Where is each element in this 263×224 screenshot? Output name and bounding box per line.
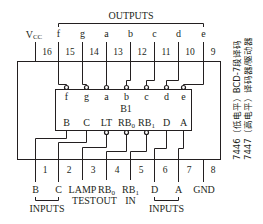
pin-number-16: 16 xyxy=(42,47,52,57)
bubble-b xyxy=(125,86,129,90)
top-inversion-bubbles xyxy=(65,86,186,90)
bubble-lt xyxy=(105,131,109,135)
vcc-label: VCC xyxy=(26,29,43,41)
bubble-a xyxy=(105,86,109,90)
pin-c-label: c xyxy=(152,28,157,39)
top-routing-wires xyxy=(59,61,204,87)
pin-number-11: 11 xyxy=(161,47,170,57)
pin-b-label: b xyxy=(128,28,133,39)
chip-title-vertical: 7446（低电平）BCD-7段译码 7447（高电平）译码器/驱动器 xyxy=(232,37,253,161)
inner-top-labels: f g a b c d e xyxy=(65,91,186,102)
gnd-label: GND xyxy=(193,184,215,195)
rb1-in-label-line2: IN xyxy=(125,195,136,206)
pin-number-10: 10 xyxy=(185,47,195,57)
inner-label-B: B xyxy=(63,117,70,128)
bubble-e xyxy=(182,86,186,90)
pin-number-14: 14 xyxy=(89,47,99,57)
pin-number-9: 9 xyxy=(211,47,216,57)
inner-label-RB0: RB0 xyxy=(118,117,135,130)
outputs-label: OUTPUTS xyxy=(108,10,153,21)
inner-label-RB1: RB1 xyxy=(138,117,155,130)
top-external-labels: VCC f g a b c d e xyxy=(26,28,207,41)
inner-label-f: f xyxy=(65,91,69,102)
chip-title-7446: 7446（低电平）BCD-7段译码 xyxy=(232,40,242,160)
chip-label: B1 xyxy=(120,103,132,114)
pin-number-5: 5 xyxy=(139,165,144,175)
inner-label-e: e xyxy=(181,91,186,102)
pin-number-6: 6 xyxy=(163,165,168,175)
inputs-left-label: INPUTS xyxy=(29,203,64,214)
bcd-7seg-decoder-diagram: OUTPUTS VCC f g a b c d e 16 15 14 13 12… xyxy=(0,0,263,224)
bubble-d xyxy=(165,86,169,90)
inner-label-D: D xyxy=(163,117,170,128)
outputs-bracket: OUTPUTS xyxy=(59,10,204,27)
bottom-pin-numbers: 1 2 3 4 5 6 7 8 xyxy=(43,165,216,175)
inputs-bracket-right: INPUTS xyxy=(149,197,184,214)
pin-number-13: 13 xyxy=(113,47,123,57)
pin-number-1: 1 xyxy=(43,165,48,175)
inputs-right-label: INPUTS xyxy=(149,203,184,214)
top-pin-numbers: 16 15 14 13 12 11 10 9 xyxy=(42,47,215,57)
pin-number-3: 3 xyxy=(91,165,96,175)
pin-C-label: C xyxy=(55,184,62,195)
bottom-routing-wires xyxy=(36,130,184,159)
chip-title-7447: 7447（高电平）译码器/驱动器 xyxy=(243,37,253,161)
inner-label-g: g xyxy=(84,91,89,102)
inner-label-d: d xyxy=(164,91,169,102)
pin-A-label: A xyxy=(175,184,183,195)
pin-e-label: e xyxy=(201,28,206,39)
pin-g-label: g xyxy=(80,28,85,39)
inner-label-LT: LT xyxy=(101,117,112,128)
pin-d-label: d xyxy=(176,28,181,39)
lamp-test-label-line2: TEST xyxy=(72,195,96,206)
bubble-c xyxy=(145,86,149,90)
pin-number-2: 2 xyxy=(67,165,72,175)
pin-B-label: B xyxy=(32,184,39,195)
bubble-f xyxy=(65,86,69,90)
inner-label-A: A xyxy=(180,117,188,128)
inner-label-b: b xyxy=(124,91,129,102)
pin-number-7: 7 xyxy=(187,165,192,175)
bottom-inversion-bubbles xyxy=(105,131,149,135)
rb0-out-label-line2: OUT xyxy=(96,195,117,206)
bubble-rb1 xyxy=(145,131,149,135)
pin-number-4: 4 xyxy=(115,165,120,175)
inner-label-c: c xyxy=(144,91,149,102)
package-outline xyxy=(18,62,221,160)
pin-number-8: 8 xyxy=(211,165,216,175)
inputs-bracket-left: INPUTS xyxy=(29,197,64,214)
lamp-test-label-line1: LAMP xyxy=(69,184,97,195)
pin-a-label: a xyxy=(104,28,109,39)
inner-label-a: a xyxy=(104,91,109,102)
bubble-g xyxy=(85,86,89,90)
pin-number-15: 15 xyxy=(65,47,75,57)
inner-bottom-labels: B C LT RB0 RB1 D A xyxy=(63,117,188,130)
bubble-rb0 xyxy=(125,131,129,135)
inner-label-C: C xyxy=(83,117,90,128)
pin-f-label: f xyxy=(57,28,61,39)
pin-number-12: 12 xyxy=(137,47,147,57)
bottom-pin-lines xyxy=(36,159,204,182)
pin-D-label: D xyxy=(151,184,158,195)
